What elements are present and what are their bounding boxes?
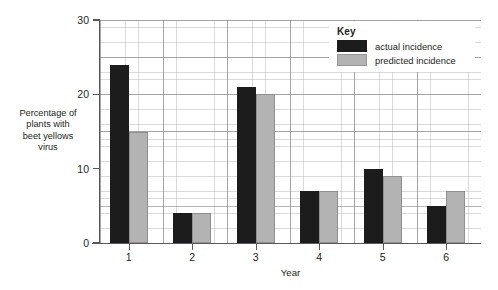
x-axis-tick [129,244,130,250]
x-axis-tick [319,244,320,250]
bar-actual-year-1 [110,65,129,243]
x-axis-tick-label: 2 [180,251,204,263]
bar-predicted-year-1 [129,132,148,244]
x-axis-tick [256,244,257,250]
x-axis-tick [446,244,447,250]
y-axis-tick [93,94,100,95]
bar-predicted-year-5 [383,176,402,243]
bar-predicted-year-4 [319,191,338,243]
dark-swatch-icon [337,40,367,52]
y-axis-tick [93,242,100,243]
bar-actual-year-6 [427,206,446,243]
bar-predicted-year-3 [256,94,275,243]
legend-item-actual: actual incidence [337,40,469,52]
legend-item-predicted: predicted incidence [337,54,469,66]
y-axis-tick-label: 10 [62,163,89,175]
legend: Key actual incidence predicted incidence [329,21,475,72]
x-axis-line [92,243,481,244]
y-axis-tick [93,19,100,20]
x-axis-tick-label: 6 [434,251,458,263]
bar-chart-figure: Percentage of plants with beet yellows v… [0,0,498,290]
y-axis-tick-label: 0 [62,237,89,249]
legend-label-actual: actual incidence [375,41,442,52]
y-axis-tick-label: 20 [62,88,89,100]
bar-actual-year-5 [364,169,383,243]
y-axis-tick-label: 30 [62,14,89,26]
x-axis-tick-label: 4 [307,251,331,263]
y-axis-tick [93,168,100,169]
x-axis-title: Year [100,267,481,278]
legend-label-predicted: predicted incidence [375,55,456,66]
x-axis-tick-label: 3 [244,251,268,263]
x-axis-tick-label: 1 [117,251,141,263]
bar-predicted-year-6 [446,191,465,243]
bar-actual-year-2 [173,213,192,243]
bar-actual-year-4 [300,191,319,243]
x-axis-tick [383,244,384,250]
x-axis-tick-label: 5 [371,251,395,263]
x-axis-tick [192,244,193,250]
light-swatch-icon [337,54,367,66]
y-axis-line [99,20,100,244]
legend-title: Key [337,26,469,37]
bar-actual-year-3 [237,87,256,243]
bar-predicted-year-2 [192,213,211,243]
y-axis-title: Percentage of plants with beet yellows v… [2,108,94,154]
